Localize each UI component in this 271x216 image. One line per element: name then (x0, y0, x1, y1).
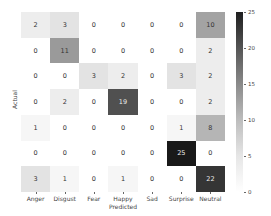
heatmap-cell: 0 (108, 12, 137, 38)
heatmap-cell: 0 (108, 38, 137, 64)
heatmap-cell: 3 (50, 12, 79, 38)
heatmap-cell: 0 (79, 89, 108, 115)
heatmap-cell: 1 (21, 115, 50, 141)
heatmap-cell: 0 (21, 89, 50, 115)
y-axis-label: Actual (11, 88, 18, 112)
heatmap-cell: 3 (79, 63, 108, 89)
colorbar-tick-label: 20 (244, 45, 255, 51)
heatmap-cell: 1 (50, 166, 79, 192)
colorbar-tick-label: 25 (244, 9, 255, 15)
heatmap-cell: 0 (21, 141, 50, 167)
heatmap-cell: 0 (108, 115, 137, 141)
heatmap-cell: 0 (79, 166, 108, 192)
heatmap-cell: 0 (138, 141, 167, 167)
heatmap-cell: 2 (50, 89, 79, 115)
colorbar-tick-label: 10 (244, 117, 255, 123)
heatmap-cell: 1 (167, 115, 196, 141)
heatmap-cell: 0 (196, 141, 225, 167)
heatmap-cell: 0 (108, 141, 137, 167)
heatmap-cell: 0 (21, 38, 50, 64)
heatmap-cell: 2 (108, 63, 137, 89)
heatmap-cell: 0 (79, 115, 108, 141)
heatmap-cell: 3 (21, 166, 50, 192)
heatmap-cell: 0 (50, 63, 79, 89)
x-tick-label: Surprise (167, 195, 196, 202)
heatmap-cell: 0 (79, 12, 108, 38)
heatmap-cell: 0 (138, 115, 167, 141)
heatmap-cell: 1 (108, 166, 137, 192)
heatmap-cell: 0 (138, 89, 167, 115)
x-tick-label: Happy (108, 195, 137, 202)
heatmap-cell: 19 (108, 89, 137, 115)
heatmap-cell: 2 (196, 38, 225, 64)
heatmap-cell: 0 (79, 141, 108, 167)
heatmap-cell: 0 (167, 166, 196, 192)
heatmap-cell: 0 (167, 89, 196, 115)
x-tick-label: Disgust (50, 195, 79, 202)
heatmap-cell: 0 (50, 115, 79, 141)
heatmap-cell: 0 (138, 63, 167, 89)
heatmap-cell: 0 (50, 141, 79, 167)
colorbar-tick-label: 15 (244, 81, 255, 87)
heatmap-cell: 11 (50, 38, 79, 64)
heatmap-cell: 2 (196, 89, 225, 115)
colorbar (236, 12, 243, 192)
heatmap-cell: 10 (196, 12, 225, 38)
heatmap-cell: 2 (21, 12, 50, 38)
heatmap-cell: 0 (138, 12, 167, 38)
heatmap-cell: 22 (196, 166, 225, 192)
heatmap-cell: 8 (196, 115, 225, 141)
x-tick-label: Neutral (196, 195, 225, 202)
heatmap-cell: 0 (167, 12, 196, 38)
colorbar-tick-label: 0 (244, 189, 252, 195)
x-tick-label: Anger (21, 195, 50, 202)
x-tick-label: Sad (138, 195, 167, 202)
heatmap-cell: 2 (196, 63, 225, 89)
x-axis-label: Predicted (21, 203, 225, 210)
heatmap-cell: 0 (21, 63, 50, 89)
heatmap-cell: 0 (79, 38, 108, 64)
x-tick-label: Fear (79, 195, 108, 202)
heatmap-cell: 0 (167, 38, 196, 64)
heatmap-cell: 3 (167, 63, 196, 89)
heatmap-grid: 2300001001100002003203202019002100001800… (21, 12, 225, 192)
heatmap-cell: 0 (138, 166, 167, 192)
heatmap-cell: 0 (138, 38, 167, 64)
heatmap-cell: 25 (167, 141, 196, 167)
colorbar-tick-label: 5 (244, 153, 252, 159)
